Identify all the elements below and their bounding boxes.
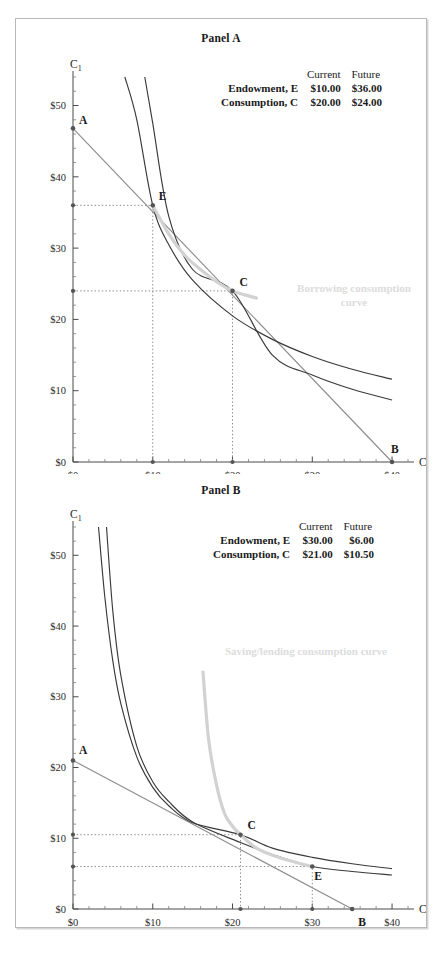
y-tick-label: $0 <box>56 457 67 468</box>
y-axis-label: C1 <box>70 58 82 73</box>
y-tick-label: $10 <box>50 385 66 396</box>
panel-a-chart: $0$10$20$30$40$0$10$20$30$40$50C1C0AECBB… <box>16 19 426 474</box>
series-path <box>73 760 352 909</box>
curve-annotation: Saving/lending consumption curve <box>225 645 387 657</box>
y-tick-label: $10 <box>50 833 66 844</box>
guide-line <box>73 867 312 909</box>
guide-line <box>73 205 153 462</box>
y-tick-label: $30 <box>50 691 66 702</box>
point-label-e: E <box>159 190 167 202</box>
panel-b-chart: $0$10$20$30$40$0$10$20$30$40$50C1C0ACEBS… <box>16 474 426 927</box>
guide-line <box>73 835 241 909</box>
data-point-c <box>230 289 235 294</box>
y-tick-label: $50 <box>50 550 66 561</box>
point-label-c: C <box>240 276 248 288</box>
y-tick-label: $30 <box>50 243 66 254</box>
data-point-b <box>390 460 395 465</box>
y-tick-label: $50 <box>50 100 66 111</box>
y-tick-label: $40 <box>50 621 66 632</box>
data-point-a <box>71 126 76 131</box>
y-axis-label: C1 <box>70 508 82 523</box>
x-axis-label: C0 <box>419 456 426 471</box>
x-tick-label: $10 <box>145 917 161 927</box>
data-point-b <box>350 907 355 912</box>
point-label-c: C <box>248 819 256 831</box>
x-tick-label: $40 <box>384 917 400 927</box>
data-point-e <box>310 864 315 869</box>
data-point-e <box>150 203 155 208</box>
point-label-b: B <box>358 916 366 927</box>
series-path <box>203 672 312 867</box>
y-tick-label: $40 <box>50 172 66 183</box>
data-point-c <box>238 832 243 837</box>
figure-frame: Panel A Current Future Endowment, E $10.… <box>15 18 427 928</box>
x-axis-label: C0 <box>419 903 426 918</box>
series-path <box>145 77 392 400</box>
point-label-a: A <box>79 744 88 756</box>
y-tick-label: $20 <box>50 762 66 773</box>
panel-a: Panel A Current Future Endowment, E $10.… <box>16 19 426 474</box>
series-path <box>99 527 393 869</box>
x-tick-label: $30 <box>304 917 320 927</box>
y-tick-label: $0 <box>56 904 67 915</box>
y-tick-label: $20 <box>50 314 66 325</box>
x-tick-label: $0 <box>68 917 79 927</box>
data-point-a <box>71 758 76 763</box>
panel-b: Panel B Current Future Endowment, E $30.… <box>16 474 426 927</box>
curve-annotation: Borrowing consumptioncurve <box>297 282 411 308</box>
point-label-e: E <box>314 870 322 882</box>
x-tick-label: $20 <box>225 917 241 927</box>
point-label-b: B <box>391 443 399 455</box>
point-label-a: A <box>79 114 88 126</box>
